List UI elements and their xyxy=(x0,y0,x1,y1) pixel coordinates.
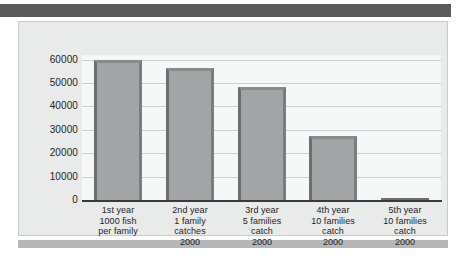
x-axis-category-label: 2nd year1 familycatches2000 xyxy=(154,205,226,247)
bar-4 xyxy=(309,136,357,200)
x-axis-label-line: 2000 xyxy=(369,237,441,248)
x-axis-label-line: 10 families xyxy=(297,216,369,227)
y-axis-tick-label: 10000 xyxy=(40,172,78,182)
x-axis-label-line: catches xyxy=(154,226,226,237)
y-axis-tick-label: 60000 xyxy=(40,55,78,65)
x-axis-label-line: 2000 xyxy=(226,237,298,248)
bar-series xyxy=(82,55,441,200)
bar-2 xyxy=(166,68,214,200)
y-axis-tick-label: 40000 xyxy=(40,101,78,111)
chart-frame: 0100002000030000400005000060000 1st year… xyxy=(18,21,448,236)
bar-5 xyxy=(381,198,429,200)
x-axis-category-label: 5th year10 familiescatch2000 xyxy=(369,205,441,247)
x-axis-category-labels: 1st year1000 fishper family2nd year1 fam… xyxy=(82,205,441,257)
x-axis-label-line: 2000 xyxy=(154,237,226,248)
x-axis-label-line: 2000 xyxy=(297,237,369,248)
x-axis-label-line: 1st year xyxy=(82,205,154,216)
x-axis-label-line: catch xyxy=(226,226,298,237)
top-decorative-band xyxy=(0,4,451,17)
x-axis-label-line: per family xyxy=(82,226,154,237)
bar-1 xyxy=(94,60,142,200)
x-axis-category-label: 3rd year5 familiescatch2000 xyxy=(226,205,298,247)
x-axis-category-label: 4th year10 familiescatch2000 xyxy=(297,205,369,247)
x-axis-label-line: 1 family xyxy=(154,216,226,227)
y-axis-tick-label: 20000 xyxy=(40,148,78,158)
x-axis-label-line: catch xyxy=(369,226,441,237)
x-axis-label-line: 10 families xyxy=(369,216,441,227)
bar-3 xyxy=(238,87,286,200)
x-axis-label-line: 4th year xyxy=(297,205,369,216)
x-axis-category-label: 1st year1000 fishper family xyxy=(82,205,154,237)
y-axis-tick-label: 50000 xyxy=(40,78,78,88)
x-axis-label-line: 5 families xyxy=(226,216,298,227)
x-axis-label-line: 5th year xyxy=(369,205,441,216)
y-axis-tick-labels: 0100002000030000400005000060000 xyxy=(37,22,78,237)
y-axis-tick-label: 0 xyxy=(40,195,78,205)
x-axis-label-line: catch xyxy=(297,226,369,237)
x-axis-label-line: 2nd year xyxy=(154,205,226,216)
y-axis-tick-label: 30000 xyxy=(40,125,78,135)
x-axis-label-line: 3rd year xyxy=(226,205,298,216)
x-axis-label-line: 1000 fish xyxy=(82,216,154,227)
x-axis-line xyxy=(82,200,442,202)
chart-page: 0100002000030000400005000060000 1st year… xyxy=(0,0,471,266)
